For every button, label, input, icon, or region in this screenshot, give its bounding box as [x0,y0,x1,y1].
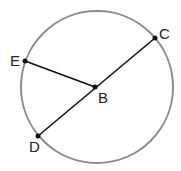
label-C: C [159,25,170,42]
segment-EB [25,61,95,87]
label-E: E [10,52,20,69]
point-C [153,36,158,41]
point-E [23,59,28,64]
point-B [93,85,98,90]
diagram-canvas: B C D E [0,0,181,171]
circle-diagram: B C D E [0,0,181,171]
label-D: D [29,138,40,155]
label-B: B [98,89,108,106]
